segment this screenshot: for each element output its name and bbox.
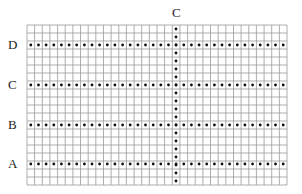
row-label-d: D	[8, 37, 17, 53]
row-label-c: C	[8, 77, 17, 93]
seating-grid	[0, 0, 302, 194]
row-label-b: B	[8, 117, 17, 133]
row-label-a: A	[8, 156, 17, 172]
top-label: C	[172, 5, 181, 21]
